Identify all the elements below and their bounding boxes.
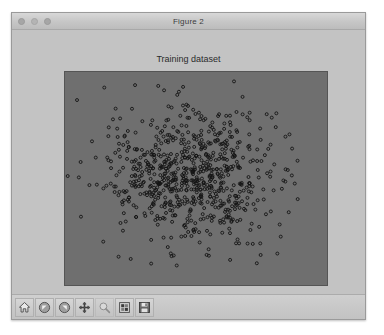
window-titlebar[interactable]: Figure 2 — [12, 13, 365, 30]
minimize-button[interactable] — [31, 18, 38, 25]
back-arrow-icon — [38, 301, 51, 314]
window-controls — [18, 13, 51, 30]
figure-canvas: Training dataset — [12, 30, 365, 294]
screenshot-root: Figure 2 Training dataset — [0, 0, 384, 335]
save-button[interactable] — [135, 298, 154, 317]
navigation-toolbar — [12, 294, 365, 319]
scatter-plot — [65, 72, 327, 285]
save-icon — [138, 301, 151, 314]
window-title: Figure 2 — [12, 13, 365, 30]
zoom-rect-icon — [98, 301, 111, 314]
home-icon — [18, 301, 31, 314]
figure-window: Figure 2 Training dataset — [11, 12, 366, 320]
close-button[interactable] — [18, 18, 25, 25]
forward-button[interactable] — [55, 298, 74, 317]
zoom-button[interactable] — [44, 18, 51, 25]
pan-button[interactable] — [75, 298, 94, 317]
scatter-axes[interactable] — [64, 71, 328, 286]
configure-subplots-button[interactable] — [115, 298, 134, 317]
forward-arrow-icon — [58, 301, 71, 314]
back-button[interactable] — [35, 298, 54, 317]
plot-title: Training dataset — [12, 54, 365, 64]
zoom-rect-button[interactable] — [95, 298, 114, 317]
configure-subplots-icon — [118, 301, 131, 314]
pan-icon — [78, 301, 91, 314]
home-button[interactable] — [15, 298, 34, 317]
